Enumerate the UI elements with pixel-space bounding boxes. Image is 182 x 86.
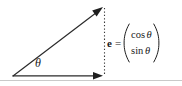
sin-argument-theta: θ [143,45,150,56]
vector-diagram-figure: θ e = cosθ sinθ [0,0,182,86]
matrix-row: sinθ [131,46,152,57]
column-vector-matrix: cosθ sinθ [123,23,160,63]
right-paren-icon [153,23,160,63]
angle-theta-label: θ [35,57,41,69]
vector-arrow [13,7,103,76]
cos-function-label: cos [131,29,145,40]
cos-argument-theta: θ [145,29,152,40]
equals-sign: = [114,38,123,49]
vector-equation: e = cosθ sinθ [107,22,160,64]
scan-artifact-rule [0,80,182,81]
matrix-row: cosθ [131,30,152,41]
matrix-rows: cosθ sinθ [130,23,153,63]
sin-function-label: sin [131,45,143,56]
left-paren-icon [123,23,130,63]
vector-symbol-e: e [107,38,114,49]
baseline-arrow [13,72,103,79]
